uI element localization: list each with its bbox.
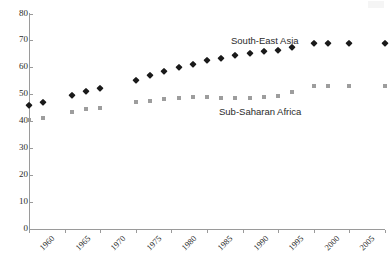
data-point-south-east-asia bbox=[325, 39, 331, 45]
data-point-south-east-asia bbox=[261, 48, 267, 54]
data-point-south-east-asia bbox=[68, 92, 74, 98]
data-point-south-east-asia bbox=[133, 77, 139, 83]
data-point-sub-saharan-africa bbox=[347, 84, 351, 88]
data-point-sub-saharan-africa bbox=[98, 106, 102, 110]
data-point-sub-saharan-africa bbox=[219, 96, 223, 100]
data-point-south-east-asia bbox=[218, 55, 224, 61]
data-point-sub-saharan-africa bbox=[134, 100, 138, 104]
data-point-south-east-asia bbox=[311, 39, 317, 45]
data-point-sub-saharan-africa bbox=[148, 99, 152, 103]
series-label-sub-saharan-africa: Sub-Saharan Africa bbox=[219, 107, 301, 117]
data-point-sub-saharan-africa bbox=[162, 97, 166, 101]
data-point-sub-saharan-africa bbox=[262, 95, 266, 99]
data-point-south-east-asia bbox=[346, 39, 352, 45]
data-point-south-east-asia bbox=[246, 50, 252, 56]
data-point-south-east-asia bbox=[382, 39, 388, 45]
data-point-sub-saharan-africa bbox=[383, 84, 387, 88]
data-point-sub-saharan-africa bbox=[191, 95, 195, 99]
data-point-sub-saharan-africa bbox=[70, 110, 74, 114]
data-point-sub-saharan-africa bbox=[312, 84, 316, 88]
data-point-south-east-asia bbox=[204, 57, 210, 63]
data-point-sub-saharan-africa bbox=[290, 90, 294, 94]
data-point-south-east-asia bbox=[147, 71, 153, 77]
data-point-south-east-asia bbox=[161, 68, 167, 74]
data-point-south-east-asia bbox=[83, 87, 89, 93]
data-point-south-east-asia bbox=[190, 61, 196, 67]
data-point-sub-saharan-africa bbox=[248, 96, 252, 100]
data-point-south-east-asia bbox=[175, 64, 181, 70]
data-point-sub-saharan-africa bbox=[84, 107, 88, 111]
data-point-south-east-asia bbox=[40, 99, 46, 105]
data-point-south-east-asia bbox=[232, 52, 238, 58]
data-point-sub-saharan-africa bbox=[233, 96, 237, 100]
data-point-sub-saharan-africa bbox=[276, 94, 280, 98]
data-point-south-east-asia bbox=[26, 102, 32, 108]
data-point-sub-saharan-africa bbox=[27, 118, 31, 122]
data-point-sub-saharan-africa bbox=[326, 84, 330, 88]
data-point-south-east-asia bbox=[275, 46, 281, 52]
life-expectancy-scatter-chart: 01020304050607080 1960196519701975198019… bbox=[0, 0, 392, 267]
data-point-sub-saharan-africa bbox=[205, 95, 209, 99]
data-point-sub-saharan-africa bbox=[41, 116, 45, 120]
plot-area bbox=[0, 0, 392, 267]
data-point-sub-saharan-africa bbox=[177, 96, 181, 100]
series-label-south-east-asia: South-East Asia bbox=[231, 36, 299, 46]
data-point-south-east-asia bbox=[97, 85, 103, 91]
